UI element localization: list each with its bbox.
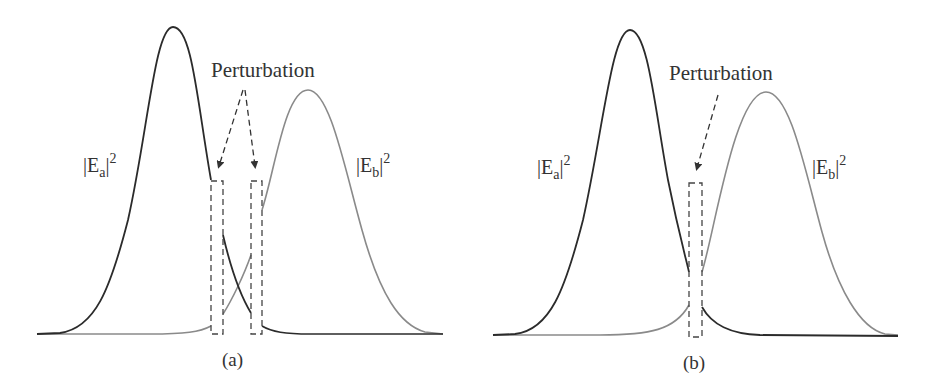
arrow-to-box-2: [245, 90, 255, 166]
eb-label-b: |Eb|2: [812, 153, 846, 182]
curve-ea-right-tail: [262, 326, 443, 334]
perturbation-label-a: Perturbation: [211, 58, 315, 82]
perturbation-box-1: [211, 181, 223, 334]
perturbation-box: [689, 183, 702, 337]
arrow-to-box: [697, 95, 718, 168]
eb-label-a: |Eb|2: [356, 151, 390, 180]
curve-eb-b: [493, 92, 898, 335]
panel-b: Perturbation |Ea|2 |Eb|2 (b): [493, 30, 898, 374]
caption-a: (a): [222, 349, 243, 371]
ea-label-b: |Ea|2: [537, 153, 570, 182]
curve-eb-hump: [262, 90, 443, 334]
caption-b: (b): [683, 352, 705, 374]
curve-ea-middle: [223, 235, 251, 313]
panel-a: Perturbation |Ea|2 |Eb|2 (a): [37, 27, 443, 371]
arrow-to-box-1: [219, 90, 243, 166]
perturbation-label-b: Perturbation: [669, 61, 773, 85]
curve-ea-hump: [37, 27, 211, 334]
figure-canvas: Perturbation |Ea|2 |Eb|2 (a) Perturbatio…: [0, 0, 941, 388]
ea-label-a: |Ea|2: [83, 151, 116, 180]
perturbation-box-2: [251, 181, 262, 334]
